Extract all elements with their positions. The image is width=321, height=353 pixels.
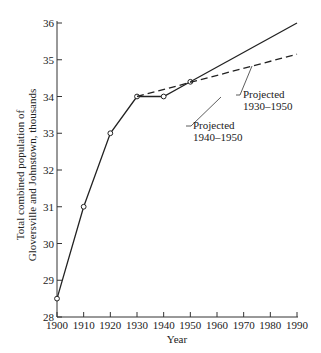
x-tick-label: 1960 <box>206 319 229 331</box>
data-point-marker <box>161 94 166 99</box>
x-axis-label: Year <box>167 333 188 345</box>
y-tick-label: 31 <box>43 201 54 213</box>
x-tick-label: 1900 <box>46 319 69 331</box>
x-tick-label: 1940 <box>153 319 176 331</box>
axes: 2829303132333435361900191019201930194019… <box>43 17 309 331</box>
annotation-1940-1950-line1: Projected <box>193 119 235 131</box>
x-tick-label: 1950 <box>179 319 202 331</box>
data-point-marker <box>55 296 60 301</box>
y-tick-label: 30 <box>43 238 55 250</box>
y-axis-label-line2: Gloversville and Johnstown, thousands <box>26 89 38 261</box>
annotation-1930-1950-line2: 1930–1950 <box>243 100 293 112</box>
annotation-1940-1950-line2: 1940–1950 <box>193 131 243 143</box>
labels: Projected1940–1950Projected1930–1950Year… <box>14 66 293 345</box>
x-tick-label: 1910 <box>73 319 96 331</box>
y-tick-label: 34 <box>43 91 55 103</box>
series-line <box>190 23 297 82</box>
y-tick-label: 33 <box>43 127 55 139</box>
population-chart: 2829303132333435361900191019201930194019… <box>0 0 321 353</box>
x-tick-label: 1920 <box>99 319 122 331</box>
data-point-marker <box>108 131 113 136</box>
annotation-1930-1950-line1: Projected <box>243 88 285 100</box>
series <box>55 23 297 301</box>
y-tick-label: 32 <box>43 164 54 176</box>
x-tick-label: 1980 <box>259 319 282 331</box>
y-axis-label-line1: Total combined population of <box>14 110 26 241</box>
x-tick-label: 1930 <box>126 319 149 331</box>
series-line <box>57 82 190 299</box>
y-tick-label: 29 <box>43 274 55 286</box>
y-tick-label: 35 <box>43 54 55 66</box>
x-tick-label: 1970 <box>233 319 256 331</box>
y-tick-label: 36 <box>43 17 55 29</box>
data-point-marker <box>81 204 86 209</box>
x-tick-label: 1990 <box>286 319 309 331</box>
